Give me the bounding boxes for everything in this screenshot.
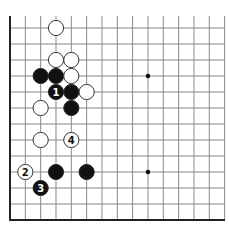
white-stone [64,52,79,67]
move-number: 3 [37,183,44,194]
move-number: 4 [68,135,75,146]
black-stone: 3 [33,180,48,195]
black-stone [79,164,94,179]
black-stone: 1 [48,84,63,99]
black-stone [48,68,63,83]
white-stone [64,68,79,83]
white-stone [33,132,48,147]
white-stone [48,52,63,67]
white-stone: 2 [18,164,33,179]
go-board: 1423 [0,0,229,228]
star-point-icon [146,74,151,79]
black-stone [64,84,79,99]
black-stone [48,164,63,179]
black-stone [64,100,79,115]
star-point-icon [146,170,151,175]
white-stone: 4 [64,132,79,147]
white-stone [48,20,63,35]
move-number: 2 [22,167,29,178]
move-number: 1 [53,87,60,98]
black-stone [33,68,48,83]
white-stone [33,100,48,115]
white-stone [79,84,94,99]
